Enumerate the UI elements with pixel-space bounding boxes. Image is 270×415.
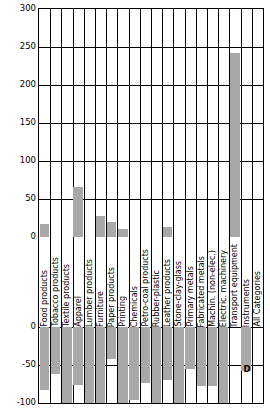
bar-negative <box>40 327 49 390</box>
chart-column: Instruments <box>241 9 252 403</box>
bar-positive <box>96 216 105 237</box>
category-label: Stone-clay-glass <box>174 261 183 327</box>
category-label: Petro-coal products <box>141 249 150 327</box>
category-label-cell: Petro-coal products <box>140 237 151 327</box>
chart-column: Leather products <box>162 9 173 403</box>
bar-negative <box>51 327 60 374</box>
bar-positive <box>163 227 172 237</box>
bar-positive <box>73 187 82 237</box>
chart-column: Furniture <box>95 9 106 403</box>
category-label: Lumber products <box>85 259 94 327</box>
category-label-cell: Textile products <box>61 237 72 327</box>
category-label-cell: Rubber-plastic <box>151 237 162 327</box>
chart-annotation: D <box>243 365 250 374</box>
chart-column: Lumber products <box>84 9 95 403</box>
bar-negative <box>174 327 183 403</box>
bar-negative <box>118 327 127 403</box>
bar-positive <box>107 222 116 237</box>
category-label: Printing <box>118 296 127 327</box>
category-label: Food products <box>40 270 49 327</box>
bar-negative <box>73 327 82 385</box>
chart-column: Printing <box>117 9 128 403</box>
category-label-cell: Machin. (non-elec.) <box>207 237 218 327</box>
chart-column: Chemicals <box>129 9 140 403</box>
chart-column: Primary metals <box>185 9 196 403</box>
category-label: Electric. machinery <box>219 250 228 327</box>
category-label-cell: Leather products <box>162 237 173 327</box>
category-label: Transport equipment <box>230 244 239 327</box>
category-label: Fabricated metals <box>197 256 206 327</box>
y-axis: 3002502001501005000-50-100 <box>0 0 36 415</box>
bar-positive <box>230 53 239 237</box>
y-tick-label: -50 <box>4 360 36 369</box>
y-tick-label: 250 <box>4 42 36 51</box>
category-label: All Categories <box>253 271 262 327</box>
category-label-cell: Printing <box>117 237 128 327</box>
y-tick-label: 0 <box>4 322 36 331</box>
bar-negative <box>96 327 105 403</box>
bar-positive <box>118 229 127 237</box>
category-label-cell: Furniture <box>95 237 106 327</box>
category-label-cell: Chemicals <box>129 237 140 327</box>
category-label-cell: Food products <box>39 237 50 327</box>
y-tick-label: 300 <box>4 4 36 13</box>
category-label-cell: Electric. machinery <box>218 237 229 327</box>
chart-column: Textile products <box>61 9 72 403</box>
category-label: Rubber-plastic <box>152 270 161 327</box>
y-tick-label: 100 <box>4 156 36 165</box>
bar-negative <box>107 327 116 359</box>
chart-column: Machin. (non-elec.) <box>207 9 218 403</box>
category-label: Chemicals <box>130 286 139 327</box>
category-label: Primary metals <box>186 266 195 327</box>
category-label-cell: Apparel <box>73 237 84 327</box>
chart-column: Stone-clay-glass <box>173 9 184 403</box>
chart-column: Apparel <box>73 9 84 403</box>
bar-chart: 3002502001501005000-50-100 Food products… <box>0 0 270 415</box>
bar-negative <box>129 327 138 400</box>
category-label-cell: Tobacco products <box>50 237 61 327</box>
chart-column: Food products <box>39 9 50 403</box>
bar-negative <box>197 327 206 386</box>
y-tick-label: 50 <box>4 194 36 203</box>
category-label: Furniture <box>96 291 105 327</box>
bar-negative <box>141 327 150 383</box>
bar-negative <box>185 327 194 369</box>
category-label-cell: Transport equipment <box>229 237 240 327</box>
bar-negative <box>163 327 172 380</box>
y-tick-label: 200 <box>4 80 36 89</box>
category-label-cell: Paper products <box>106 237 117 327</box>
bar-negative <box>219 327 228 403</box>
bar-negative <box>62 327 71 403</box>
category-label-cell: Stone-clay-glass <box>173 237 184 327</box>
category-label: Apparel <box>74 296 83 327</box>
bar-positive <box>40 224 49 237</box>
plot-area: Food productsTobacco productsTextile pro… <box>38 8 264 404</box>
chart-column: Tobacco products <box>50 9 61 403</box>
category-label-cell: Instruments <box>241 237 252 327</box>
bar-negative <box>85 327 94 403</box>
chart-column: Transport equipment <box>229 9 240 403</box>
category-label: Paper products <box>107 267 116 327</box>
chart-column: Petro-coal products <box>140 9 151 403</box>
category-label-cell: All Categories <box>252 237 263 327</box>
chart-column: Paper products <box>106 9 117 403</box>
y-tick-label: 150 <box>4 118 36 127</box>
bar-negative <box>152 327 161 403</box>
category-label: Textile products <box>62 264 71 327</box>
category-label-cell: Primary metals <box>185 237 196 327</box>
category-label: Tobacco products <box>51 257 60 327</box>
chart-column: Fabricated metals <box>196 9 207 403</box>
category-label-cell: Fabricated metals <box>196 237 207 327</box>
chart-column: Electric. machinery <box>218 9 229 403</box>
category-label-cell: Lumber products <box>84 237 95 327</box>
y-tick-label: 0 <box>4 232 36 241</box>
chart-column: All Categories <box>252 9 263 403</box>
category-label: Instruments <box>242 279 251 327</box>
category-label: Leather products <box>163 259 172 327</box>
chart-column: Rubber-plastic <box>151 9 162 403</box>
bar-negative <box>208 327 217 386</box>
y-tick-label: -100 <box>4 398 36 407</box>
category-label: Machin. (non-elec.) <box>208 250 217 327</box>
